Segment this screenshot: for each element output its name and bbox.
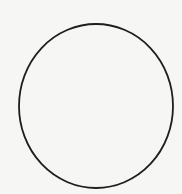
drawing-canvas xyxy=(0,0,182,194)
circle-outline xyxy=(19,24,173,188)
